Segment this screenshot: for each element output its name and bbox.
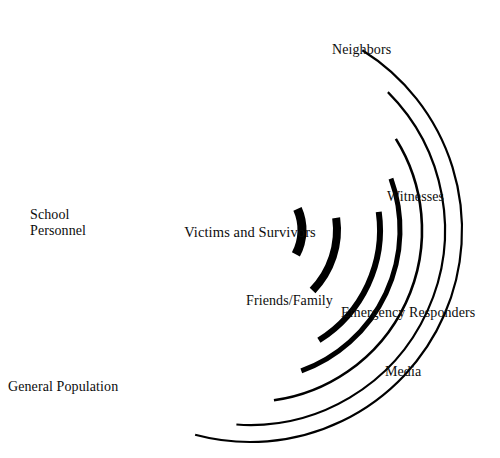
ring-arc-school-personnel <box>301 179 400 371</box>
label-victims-and-survivors: Victims and Survivors <box>170 224 330 242</box>
label-school-personnel-line-1: School <box>30 207 116 223</box>
label-neighbors: Neighbors <box>332 42 391 58</box>
ring-arc-neighbors <box>274 139 422 400</box>
label-general-population: General Population <box>8 379 118 395</box>
label-media: Media <box>385 364 421 380</box>
label-emergency-responders: Emergency Responders <box>341 305 475 321</box>
label-school-personnel: School Personnel <box>30 207 116 238</box>
label-witnesses: Witnesses <box>387 189 444 205</box>
label-friends-family: Friends/Family <box>246 293 333 309</box>
label-school-personnel-line-2: Personnel <box>30 223 116 239</box>
ripple-effect-diagram: Victims and Survivors Friends/Family Eme… <box>0 0 500 458</box>
